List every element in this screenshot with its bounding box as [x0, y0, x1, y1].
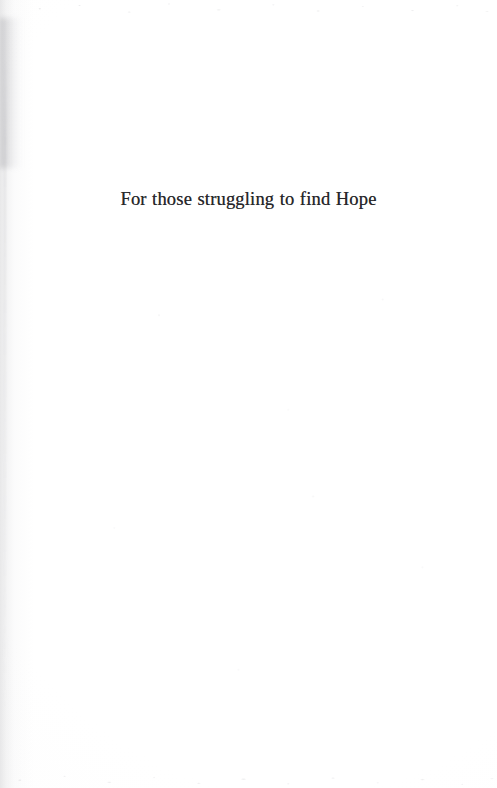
scan-dust-specks — [0, 0, 497, 788]
gutter-smudge — [0, 18, 22, 168]
paper-texture — [0, 0, 497, 788]
dedication-page: For those struggling to find Hope — [0, 0, 497, 788]
scan-speckle-top — [0, 0, 497, 22]
scan-speckle-bottom — [0, 762, 497, 788]
gutter-shadow — [0, 0, 34, 788]
page-fold-line — [4, 60, 6, 710]
dedication-block: For those struggling to find Hope — [0, 188, 497, 210]
dedication-text: For those struggling to find Hope — [120, 188, 376, 210]
